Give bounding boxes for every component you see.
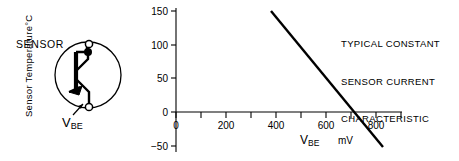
collector-terminal-icon	[85, 40, 92, 47]
x-tick-label-0: 0	[156, 121, 196, 131]
x-tick-label-200: 200	[206, 121, 246, 131]
sensor-schematic	[55, 40, 121, 115]
y-axis-title-text: Sensor Temperature	[23, 26, 34, 117]
x-axis-title: VBE	[300, 134, 319, 148]
schematic-vbe-label: VBE	[62, 116, 83, 131]
figure-panel: SENSOR VBE Sensor Temperature°C 150 100 …	[0, 0, 459, 161]
y-axis-unit: °C	[23, 14, 34, 25]
schematic-vbe-subscript: BE	[71, 121, 83, 131]
x-tick-label-400: 400	[256, 121, 296, 131]
annotation-line-3: CHARACTERISTIC	[341, 113, 440, 126]
y-axis-title: Sensor Temperature°C	[24, 0, 34, 141]
y-tick-label-neg50: −50	[130, 142, 168, 152]
annotation-line-1: TYPICAL CONSTANT	[341, 38, 440, 51]
chart-annotation-block: TYPICAL CONSTANT SENSOR CURRENT CHARACTE…	[341, 13, 440, 151]
y-tick-label-50: 50	[130, 74, 168, 84]
emitter-terminal-icon	[85, 103, 92, 110]
y-tick-label-0: 0	[130, 108, 168, 118]
x-axis-title-subscript: BE	[308, 138, 319, 148]
y-tick-label-150: 150	[130, 7, 168, 17]
base-junction-dot-icon	[84, 48, 92, 56]
schematic-vbe-main: V	[62, 115, 71, 130]
annotation-line-2: SENSOR CURRENT	[341, 76, 440, 89]
x-tick-label-600: 600	[306, 121, 346, 131]
x-axis-title-main: V	[300, 133, 308, 147]
y-tick-label-100: 100	[130, 41, 168, 51]
